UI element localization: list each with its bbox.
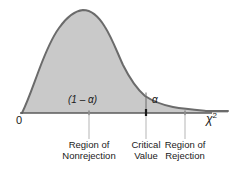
- nonrejection-area-label: (1 – α): [68, 94, 97, 106]
- axis-origin-label: 0: [16, 114, 22, 127]
- curve-fill-area: [22, 10, 228, 113]
- callout-region-of-rejection: Region of Rejection: [152, 140, 218, 162]
- axis-variable-label: χ2: [206, 111, 217, 127]
- callout-rejection-line2: Rejection: [152, 151, 218, 162]
- rejection-area-label: α: [152, 94, 158, 106]
- axis-variable-exponent: 2: [213, 111, 217, 120]
- chi-square-distribution-figure: (1 – α) α 0 χ2 Region of Nonrejection Cr…: [0, 0, 239, 173]
